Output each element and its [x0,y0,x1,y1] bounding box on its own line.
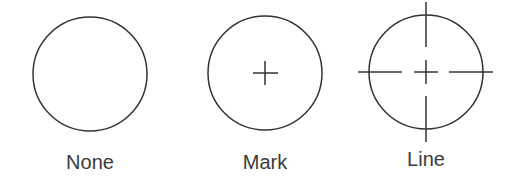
option-line-label: Line [366,147,486,171]
option-mark-graphic [208,16,322,130]
center-mark-icon [414,60,438,84]
circle-icon [33,17,147,131]
option-line-graphic [358,2,493,142]
center-mark-icon [253,61,278,85]
option-none-graphic [33,17,147,131]
option-none-label: None [30,150,150,174]
option-mark-label: Mark [205,150,325,174]
